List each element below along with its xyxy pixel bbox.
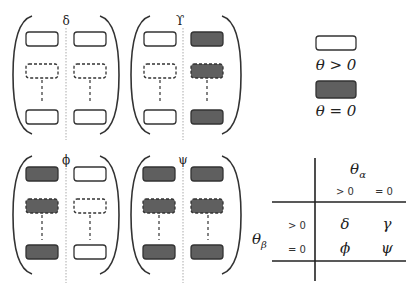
cell-phi: ϕ [340,239,350,257]
matrix-psi: ψ [131,153,241,283]
col-value-zero: = 0 [375,186,393,197]
row-header: θβ [252,230,267,250]
cell-box-dashed [74,199,106,213]
cell-psi: ψ [381,239,393,257]
matrix-delta: δ [13,14,119,140]
col-value-positive: > 0 [336,186,354,197]
matrix-label: ϒ [176,14,184,28]
cell-box-filled [191,167,223,181]
cell-box-dashed [144,64,176,78]
cell-box [144,110,176,124]
matrix-phi: ϕ [13,153,119,283]
cell-box [26,110,58,124]
cell-box-filled-dashed [191,199,223,213]
cell-box-filled-dashed [191,64,223,78]
cell-box [74,110,106,124]
cell-box-dashed [74,64,106,78]
legend-label-zero: θ = 0 [316,102,357,120]
cell-box-filled [143,245,175,259]
matrix-gamma: ϒ [131,14,241,140]
cell-box-filled [143,167,175,181]
cell-box-filled [191,245,223,259]
matrix-label: δ [62,14,69,28]
cell-box [26,32,58,46]
legend-swatch-zero [316,81,356,98]
cell-box [74,167,106,181]
cell-box-dashed [26,64,58,78]
cell-box-filled-dashed [26,199,58,213]
cell-delta: δ [340,215,349,233]
row-value-positive: > 0 [288,220,306,231]
right-bracket [222,16,241,134]
cell-box-filled [26,245,58,259]
cell-box-filled [26,167,58,181]
matrix-label: ϕ [62,153,70,167]
matrix-label: ψ [178,153,187,167]
row-value-zero: = 0 [288,244,306,255]
legend: θ > 0 θ = 0 [316,36,357,120]
cell-box [74,245,106,259]
cell-box-filled-dashed [143,199,175,213]
cell-box-filled [191,110,223,124]
diagram-canvas: δ ϒ ϕ [0,0,418,295]
cell-box [144,32,176,46]
cell-gamma: γ [383,215,392,233]
legend-label-positive: θ > 0 [316,56,357,74]
truth-table: θα > 0 = 0 θβ > 0 = 0 δ γ ϕ ψ [252,158,406,281]
right-bracket [222,156,241,274]
col-header: θα [350,160,366,180]
legend-swatch-positive [316,36,356,50]
cell-box [74,32,106,46]
cell-box-filled [191,32,223,46]
